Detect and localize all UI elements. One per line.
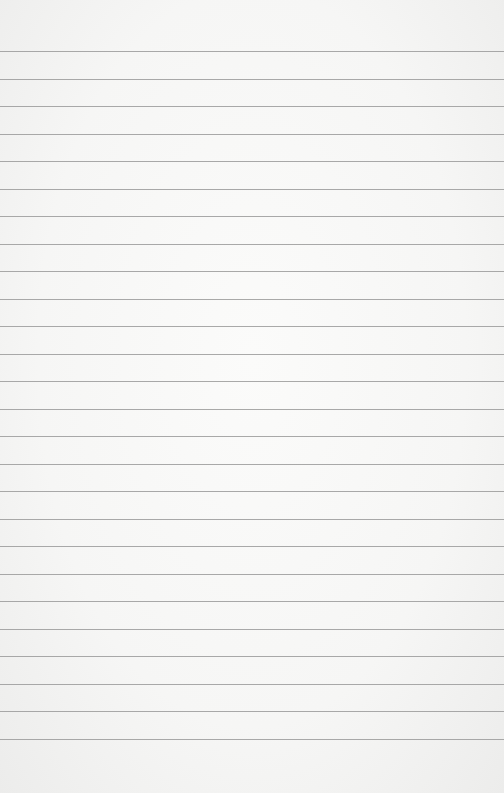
ruled-line (0, 491, 504, 492)
ruled-line (0, 79, 504, 80)
ruled-line (0, 51, 504, 52)
ruled-line (0, 326, 504, 327)
ruled-line (0, 519, 504, 520)
ruled-line (0, 711, 504, 712)
ruled-line (0, 409, 504, 410)
ruled-line (0, 436, 504, 437)
ruled-line (0, 601, 504, 602)
ruled-line (0, 546, 504, 547)
ruled-line (0, 574, 504, 575)
ruled-line (0, 106, 504, 107)
ruled-line (0, 464, 504, 465)
ruled-line (0, 354, 504, 355)
ruled-line (0, 629, 504, 630)
ruled-line (0, 134, 504, 135)
ruled-line (0, 684, 504, 685)
ruled-line (0, 244, 504, 245)
ruled-line (0, 739, 504, 740)
ruled-line (0, 381, 504, 382)
ruled-line (0, 189, 504, 190)
ruled-line (0, 216, 504, 217)
ruled-line (0, 299, 504, 300)
lined-paper (0, 0, 504, 793)
ruled-line (0, 271, 504, 272)
ruled-line (0, 161, 504, 162)
ruled-line (0, 656, 504, 657)
